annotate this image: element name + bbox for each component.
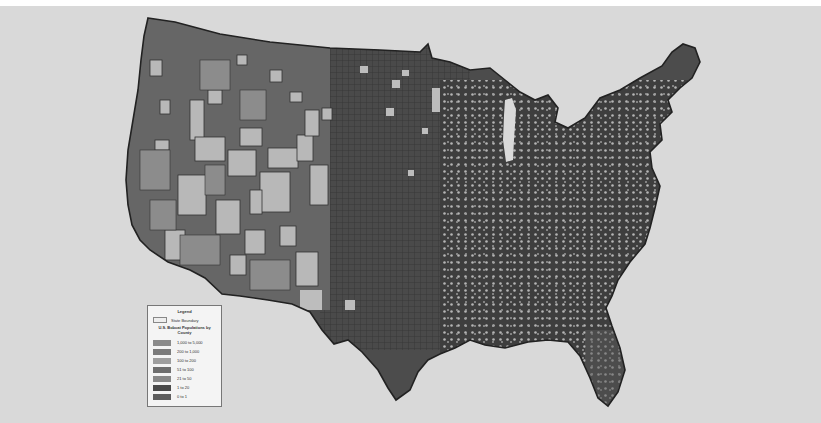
legend-class-row: 1,000 to 5,000 xyxy=(153,339,216,346)
legend-class-row: 0 to 1 xyxy=(153,393,216,400)
legend-title: Legend xyxy=(153,309,216,314)
legend-boundary-row: State Boundary xyxy=(153,317,216,323)
legend-class-label: 51 to 100 xyxy=(177,367,194,372)
map-legend: Legend State Boundary U.S. Bobcat Popula… xyxy=(147,305,222,407)
legend-class-row: 100 to 200 xyxy=(153,357,216,364)
legend-class-label: 1,000 to 5,000 xyxy=(177,340,203,345)
legend-class-row: 200 to 1,000 xyxy=(153,348,216,355)
legend-swatch xyxy=(153,349,171,355)
legend-swatch xyxy=(153,358,171,364)
legend-swatch xyxy=(153,340,171,346)
legend-class-label: 21 to 50 xyxy=(177,376,191,381)
legend-class-row: 21 to 50 xyxy=(153,375,216,382)
legend-swatch xyxy=(153,367,171,373)
legend-class-label: 100 to 200 xyxy=(177,358,196,363)
boundary-label: State Boundary xyxy=(171,318,199,323)
legend-swatch xyxy=(153,376,171,382)
legend-class-label: 1 to 20 xyxy=(177,385,189,390)
map-svg xyxy=(0,0,821,423)
legend-class-row: 1 to 20 xyxy=(153,384,216,391)
us-choropleth-map xyxy=(0,0,821,423)
legend-swatch xyxy=(153,385,171,391)
legend-class-label: 0 to 1 xyxy=(177,394,187,399)
legend-classes: 1,000 to 5,000200 to 1,000100 to 20051 t… xyxy=(153,339,216,400)
legend-swatch xyxy=(153,394,171,400)
legend-class-label: 200 to 1,000 xyxy=(177,349,199,354)
legend-subtitle: U.S. Bobcat Populations by County xyxy=(153,325,216,335)
boundary-swatch xyxy=(153,317,167,323)
legend-class-row: 51 to 100 xyxy=(153,366,216,373)
